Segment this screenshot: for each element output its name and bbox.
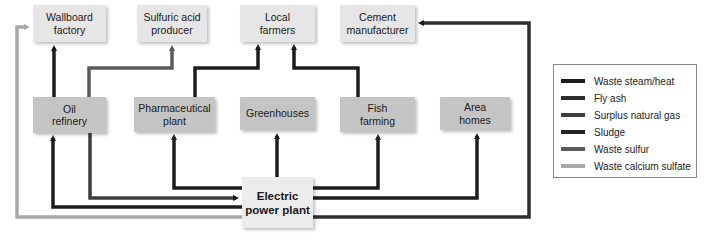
legend-swatch <box>561 79 585 83</box>
arrow-plant-to-fish <box>313 137 378 188</box>
legend-item-waste-steam: Waste steam/heat <box>554 73 674 89</box>
legend: Waste steam/heat Fly ash Surplus natural… <box>553 64 697 178</box>
node-greenhouses: Greenhouses <box>240 97 315 130</box>
node-fish-farming: Fish farming <box>340 97 415 132</box>
node-cement-manufacturer: Cement manufacturer <box>340 5 415 42</box>
arrow-plant-to-pharma <box>174 137 242 188</box>
legend-swatch <box>561 113 585 117</box>
arrow-fish-to-farmers <box>294 47 358 97</box>
arrow-refinery-to-sulfuric <box>89 48 172 97</box>
legend-item-waste-sulfur: Waste sulfur <box>554 141 649 157</box>
arrow-pharma-to-farmers <box>195 47 258 97</box>
legend-swatch <box>561 130 585 134</box>
node-area-homes: Area homes <box>440 97 510 130</box>
legend-swatch <box>561 164 585 168</box>
legend-item-fly-ash: Fly ash <box>554 90 626 106</box>
legend-item-surplus-gas: Surplus natural gas <box>554 107 680 123</box>
legend-item-sludge: Sludge <box>554 124 625 140</box>
legend-item-calcium-sulfate: Waste calcium sulfate <box>554 158 691 174</box>
node-wallboard-factory: Wallboard factory <box>33 5 106 42</box>
node-sulfuric-acid-producer: Sulfuric acid producer <box>137 5 207 42</box>
legend-swatch <box>561 96 585 100</box>
node-electric-power-plant: Electric power plant <box>242 177 313 228</box>
node-oil-refinery: Oil refinery <box>33 97 106 133</box>
node-local-farmers: Local farmers <box>240 5 315 42</box>
legend-swatch <box>561 147 585 151</box>
node-pharmaceutical-plant: Pharmaceutical plant <box>134 97 215 132</box>
